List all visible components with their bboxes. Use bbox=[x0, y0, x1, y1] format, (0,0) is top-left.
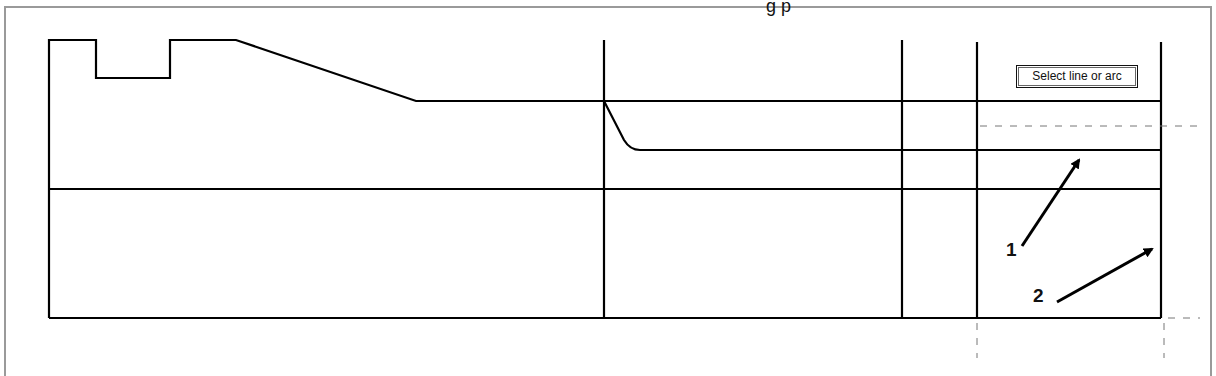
select-line-or-arc-tooltip: Select line or arc bbox=[1016, 65, 1138, 88]
chamfer-arc-line[interactable] bbox=[604, 101, 1161, 150]
arrow-1 bbox=[1022, 160, 1079, 246]
annotation-label-1: 1 bbox=[1006, 239, 1017, 261]
annotation-label-2: 2 bbox=[1033, 285, 1044, 307]
annotation-arrows bbox=[1022, 160, 1152, 302]
arrow-2 bbox=[1057, 249, 1152, 302]
